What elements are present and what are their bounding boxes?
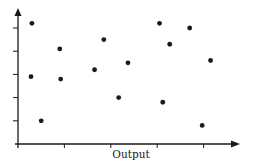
data-point bbox=[30, 21, 35, 26]
data-point bbox=[157, 21, 162, 26]
x-axis-label: Output bbox=[0, 148, 256, 160]
y-axis-arrow-icon bbox=[15, 8, 22, 16]
axes bbox=[13, 8, 240, 148]
data-point bbox=[160, 100, 165, 105]
data-point bbox=[58, 77, 63, 82]
data-point bbox=[187, 26, 192, 31]
data-point bbox=[116, 95, 121, 100]
data-point bbox=[39, 118, 44, 123]
data-point bbox=[208, 58, 213, 63]
data-point bbox=[126, 60, 131, 65]
data-point bbox=[57, 46, 62, 51]
data-points bbox=[29, 21, 213, 128]
data-point bbox=[92, 67, 97, 72]
scatter-plot bbox=[0, 0, 256, 167]
data-point bbox=[167, 42, 172, 47]
x-axis-arrow-icon bbox=[231, 141, 240, 148]
data-point bbox=[101, 37, 106, 42]
data-point bbox=[200, 123, 205, 128]
data-point bbox=[29, 74, 34, 79]
